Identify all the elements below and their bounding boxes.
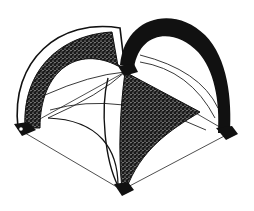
groin-vault-drawing <box>0 0 254 211</box>
front-web <box>104 72 200 190</box>
left-arch <box>17 27 125 128</box>
corner-pier-front <box>114 182 134 196</box>
illustration-canvas: Line drawing of a square groin-vaulted c… <box>0 0 254 211</box>
